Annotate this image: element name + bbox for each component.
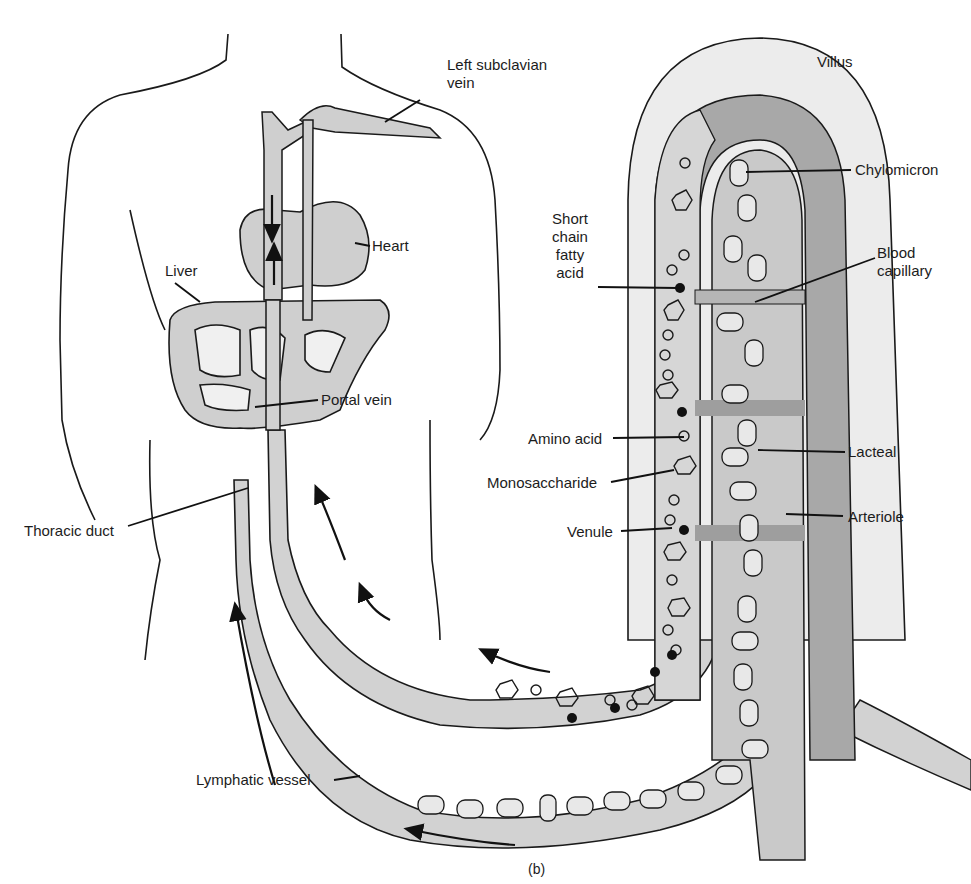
label-amino-acid: Amino acid (528, 430, 602, 448)
label-monosaccharide: Monosaccharide (487, 474, 597, 492)
panel-label: (b) (528, 860, 545, 878)
label-heart: Heart (372, 237, 409, 255)
label-venule: Venule (567, 523, 613, 541)
portal-vein-lower (266, 300, 280, 430)
label-portal-vein: Portal vein (321, 391, 392, 409)
label-lacteal: Lacteal (848, 443, 896, 461)
label-chylomicron: Chylomicron (855, 161, 938, 179)
label-liver: Liver (165, 262, 198, 280)
label-short-chain-fatty-acid: Short chain fatty acid (545, 210, 595, 282)
absorption-diagram: Left subclavian vein Villus Chylomicron … (0, 0, 971, 884)
label-blood-capillary: Blood capillary (877, 244, 932, 280)
label-villus: Villus (817, 53, 853, 71)
label-lymphatic-vessel: Lymphatic vessel (196, 771, 311, 789)
label-left-subclavian-vein: Left subclavian vein (447, 56, 547, 92)
label-arteriole: Arteriole (848, 508, 904, 526)
label-thoracic-duct: Thoracic duct (24, 522, 114, 540)
diagram-artwork (0, 0, 971, 884)
